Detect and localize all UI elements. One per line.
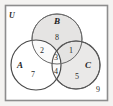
- set-label-b: B: [53, 16, 60, 26]
- set-label-c: C: [85, 60, 92, 70]
- venn-diagram-figure: U B A C 8 2 1 3 7 4 5 9: [0, 0, 113, 106]
- region-count-a-b-c: 3: [54, 53, 58, 62]
- set-label-a: A: [16, 60, 23, 70]
- region-count-outside: 9: [96, 85, 100, 94]
- region-count-a-only: 7: [31, 70, 35, 79]
- region-count-b-only: 8: [55, 33, 59, 42]
- region-count-c-only: 5: [75, 72, 79, 81]
- region-count-a-and-c: 4: [54, 67, 58, 76]
- region-count-b-and-c: 1: [69, 46, 73, 55]
- venn-diagram-canvas: U B A C 8 2 1 3 7 4 5 9: [0, 0, 113, 106]
- region-count-a-and-b: 2: [40, 46, 44, 55]
